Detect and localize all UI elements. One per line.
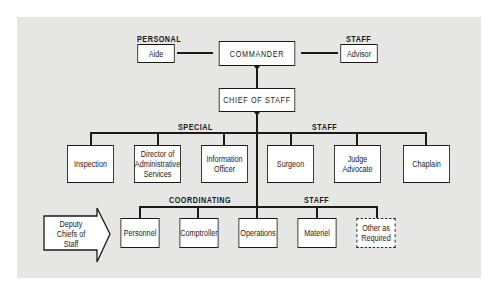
trunk-arrowhead bbox=[254, 112, 260, 116]
node-chaplain: Chaplain bbox=[403, 145, 450, 183]
drop-chaplain bbox=[425, 132, 427, 145]
node-commander: COMMANDER bbox=[219, 41, 296, 66]
special-staff-bar bbox=[90, 132, 427, 134]
node-inspection: Inspection bbox=[67, 145, 114, 183]
deputy-chiefs-label: Deputy Chiefs of Staff bbox=[50, 218, 93, 250]
connector-advisor bbox=[301, 52, 338, 54]
node-surgeon: Surgeon bbox=[267, 145, 314, 183]
node-operations: Operations bbox=[238, 218, 277, 248]
coordinating-staff-bar bbox=[139, 206, 378, 208]
node-other-as-required: Other as Required bbox=[356, 218, 395, 248]
node-comptroller: Comptroller bbox=[179, 218, 218, 248]
drop-info bbox=[223, 132, 225, 145]
trunk-line bbox=[256, 112, 258, 218]
drop-materiel bbox=[316, 206, 318, 218]
drop-judge bbox=[356, 132, 358, 145]
drop-director bbox=[157, 132, 159, 145]
node-advisor: Advisor bbox=[340, 44, 377, 63]
drop-other bbox=[376, 206, 378, 218]
special-staff-label: STAFF bbox=[312, 122, 337, 132]
node-judge-advocate: Judge Advocate bbox=[334, 145, 381, 183]
drop-inspection bbox=[90, 132, 92, 145]
connector-arrowhead bbox=[254, 66, 260, 70]
personal-label: PERSONAL bbox=[137, 34, 181, 44]
special-label: SPECIAL bbox=[178, 122, 213, 132]
node-director-admin-services: Director of Administrative Services bbox=[134, 145, 181, 183]
coordinating-staff-label: STAFF bbox=[304, 195, 329, 205]
node-materiel: Materiel bbox=[297, 218, 336, 248]
drop-personnel bbox=[139, 206, 141, 218]
drop-comptroller bbox=[197, 206, 199, 218]
staff-top-label: STAFF bbox=[346, 34, 371, 44]
node-information-officer: Information Officer bbox=[201, 145, 248, 183]
node-aide: Aide bbox=[137, 44, 174, 63]
connector-aide bbox=[177, 52, 213, 54]
node-personnel: Personnel bbox=[120, 218, 159, 248]
drop-surgeon bbox=[290, 132, 292, 145]
node-chief-of-staff: CHIEF OF STAFF bbox=[219, 88, 296, 112]
coordinating-label: COORDINATING bbox=[169, 195, 231, 205]
